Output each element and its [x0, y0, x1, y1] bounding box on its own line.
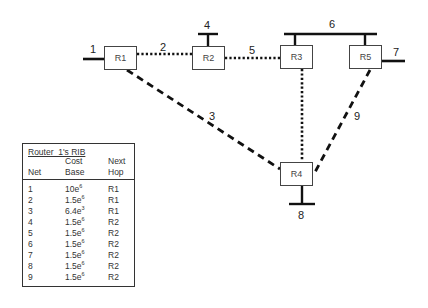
header-cost: Cost: [65, 157, 82, 166]
hop-cell: R1: [108, 195, 119, 205]
net-cell: 2: [28, 195, 33, 205]
net-3-label: 3: [209, 111, 215, 122]
hop-cell: R2: [108, 228, 119, 238]
table-row: 61.5e6R2: [23, 239, 134, 250]
router-r1: R1: [104, 46, 137, 70]
header-net: Net: [28, 168, 41, 177]
cost-cell: 1.5e6: [65, 272, 85, 282]
hop-cell: R1: [108, 184, 119, 194]
cost-cell: 10e6: [65, 184, 82, 194]
cost-cell: 1.5e6: [65, 261, 85, 271]
net-3-line: [127, 70, 280, 169]
net-2-label: 2: [160, 42, 166, 53]
cost-cell: 6.4e3: [65, 206, 85, 216]
net-cell: 6: [28, 239, 33, 249]
net-cell: 5: [28, 228, 33, 238]
table-row: 51.5e6R2: [23, 228, 134, 239]
cost-cell: 1.5e6: [65, 228, 85, 238]
cost-cell: 1.5e6: [65, 195, 85, 205]
table-row: 110e6R1: [23, 184, 134, 195]
net-9-label: 9: [354, 111, 360, 122]
net-7-label: 7: [393, 47, 399, 58]
hop-cell: R2: [108, 261, 119, 271]
header-divider: [23, 179, 134, 180]
hop-cell: R1: [108, 206, 119, 216]
router-r2: R2: [192, 46, 225, 70]
table-row: 91.5e6R2: [23, 272, 134, 283]
table-row: 41.5e6R2: [23, 217, 134, 228]
net-1-label: 1: [90, 44, 96, 55]
net-cell: 3: [28, 206, 33, 216]
net-5-label: 5: [249, 45, 255, 56]
table-row: 36.4e3R1: [23, 206, 134, 217]
router-r4: R4: [280, 162, 313, 186]
net-cell: 8: [28, 261, 33, 271]
table-row: 21.5e6R1: [23, 195, 134, 206]
table-row: 81.5e6R2: [23, 261, 134, 272]
hop-cell: R2: [108, 239, 119, 249]
net-4-label: 4: [204, 20, 210, 31]
net-8-label: 8: [298, 210, 304, 221]
hop-cell: R2: [108, 217, 119, 227]
net-6-label: 6: [329, 19, 335, 30]
net-cell: 4: [28, 217, 33, 227]
hop-cell: R2: [108, 250, 119, 260]
net-cell: 1: [28, 184, 33, 194]
header-next: Next: [108, 157, 125, 166]
rib-table: Router 1's RIB Net Cost Base Next Hop 11…: [22, 143, 135, 287]
cost-cell: 1.5e6: [65, 250, 85, 260]
net-9-line: [314, 70, 370, 174]
table-row: 71.5e6R2: [23, 250, 134, 261]
net-cell: 7: [28, 250, 33, 260]
router-r5: R5: [349, 45, 382, 69]
cost-cell: 1.5e6: [65, 239, 85, 249]
hop-cell: R2: [108, 272, 119, 282]
header-base: Base: [65, 168, 84, 177]
net-cell: 9: [28, 272, 33, 282]
header-hop: Hop: [108, 168, 124, 177]
cost-cell: 1.5e6: [65, 217, 85, 227]
router-r3: R3: [280, 45, 313, 69]
